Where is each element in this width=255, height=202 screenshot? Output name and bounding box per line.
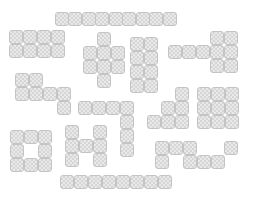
tile[interactable] xyxy=(51,30,65,44)
tile[interactable] xyxy=(136,12,150,26)
tile[interactable] xyxy=(168,45,182,59)
tile[interactable] xyxy=(97,74,111,88)
tile[interactable] xyxy=(130,51,144,65)
tile[interactable] xyxy=(93,125,107,139)
tile[interactable] xyxy=(92,101,106,115)
tile[interactable] xyxy=(175,87,189,101)
tile[interactable] xyxy=(144,175,158,189)
tile[interactable] xyxy=(60,175,74,189)
tile[interactable] xyxy=(130,37,144,51)
tile[interactable] xyxy=(74,175,88,189)
tile[interactable] xyxy=(15,87,29,101)
tile[interactable] xyxy=(102,175,116,189)
tile[interactable] xyxy=(130,175,144,189)
tile[interactable] xyxy=(130,79,144,93)
tile[interactable] xyxy=(111,60,125,74)
tile[interactable] xyxy=(161,115,175,129)
tile[interactable] xyxy=(225,115,239,129)
tile[interactable] xyxy=(83,46,97,60)
tile[interactable] xyxy=(225,101,239,115)
tile[interactable] xyxy=(65,139,79,153)
tile[interactable] xyxy=(51,44,65,58)
tile[interactable] xyxy=(224,45,238,59)
tile[interactable] xyxy=(175,115,189,129)
tile[interactable] xyxy=(182,45,196,59)
tile[interactable] xyxy=(78,101,92,115)
tile[interactable] xyxy=(197,87,211,101)
tile[interactable] xyxy=(65,125,79,139)
tile[interactable] xyxy=(196,45,210,59)
tile[interactable] xyxy=(197,115,211,129)
tile[interactable] xyxy=(29,87,43,101)
tile[interactable] xyxy=(97,46,111,60)
tile[interactable] xyxy=(29,73,43,87)
tile[interactable] xyxy=(130,65,144,79)
tile[interactable] xyxy=(43,87,57,101)
tile[interactable] xyxy=(95,12,109,26)
tile[interactable] xyxy=(9,30,23,44)
tile[interactable] xyxy=(147,115,161,129)
tile[interactable] xyxy=(211,101,225,115)
tile[interactable] xyxy=(120,129,134,143)
tile[interactable] xyxy=(120,115,134,129)
tile[interactable] xyxy=(82,12,96,26)
tile[interactable] xyxy=(183,155,197,169)
tile[interactable] xyxy=(225,87,239,101)
tile[interactable] xyxy=(38,158,52,172)
tile[interactable] xyxy=(224,59,238,73)
tile[interactable] xyxy=(37,44,51,58)
tile[interactable] xyxy=(197,101,211,115)
tile[interactable] xyxy=(120,101,134,115)
tile[interactable] xyxy=(93,139,107,153)
tile[interactable] xyxy=(97,60,111,74)
tile[interactable] xyxy=(111,46,125,60)
tile[interactable] xyxy=(65,153,79,167)
tile[interactable] xyxy=(183,141,197,155)
tile[interactable] xyxy=(210,45,224,59)
tile[interactable] xyxy=(197,155,211,169)
tile[interactable] xyxy=(10,144,24,158)
tile[interactable] xyxy=(57,87,71,101)
tile[interactable] xyxy=(109,12,123,26)
tile[interactable] xyxy=(15,73,29,87)
tile[interactable] xyxy=(57,101,71,115)
tile[interactable] xyxy=(97,32,111,46)
tile[interactable] xyxy=(210,59,224,73)
tile[interactable] xyxy=(93,153,107,167)
tile[interactable] xyxy=(155,141,169,155)
tile[interactable] xyxy=(9,44,23,58)
tile[interactable] xyxy=(224,141,238,155)
tile[interactable] xyxy=(210,31,224,45)
tile[interactable] xyxy=(169,141,183,155)
tile[interactable] xyxy=(24,158,38,172)
tile[interactable] xyxy=(211,155,225,169)
tile[interactable] xyxy=(37,30,51,44)
tile[interactable] xyxy=(38,144,52,158)
tile[interactable] xyxy=(106,101,120,115)
tile[interactable] xyxy=(38,130,52,144)
tile[interactable] xyxy=(55,12,69,26)
tile[interactable] xyxy=(144,51,158,65)
tile[interactable] xyxy=(144,37,158,51)
tile[interactable] xyxy=(155,155,169,169)
tile[interactable] xyxy=(163,12,177,26)
tile[interactable] xyxy=(23,44,37,58)
tile[interactable] xyxy=(10,158,24,172)
tile[interactable] xyxy=(144,79,158,93)
tile[interactable] xyxy=(211,87,225,101)
tile[interactable] xyxy=(158,175,172,189)
tile[interactable] xyxy=(88,175,102,189)
tile[interactable] xyxy=(68,12,82,26)
tile[interactable] xyxy=(122,12,136,26)
tile[interactable] xyxy=(149,12,163,26)
tile[interactable] xyxy=(144,65,158,79)
tile[interactable] xyxy=(24,130,38,144)
tile[interactable] xyxy=(10,130,24,144)
tile[interactable] xyxy=(224,31,238,45)
tile[interactable] xyxy=(23,30,37,44)
tile[interactable] xyxy=(120,143,134,157)
tile[interactable] xyxy=(83,60,97,74)
tile[interactable] xyxy=(79,139,93,153)
tile[interactable] xyxy=(175,101,189,115)
tile[interactable] xyxy=(211,115,225,129)
